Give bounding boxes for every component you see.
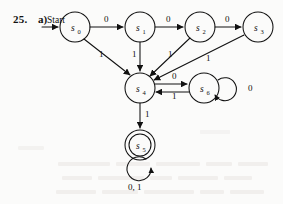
transition-label-s5-self: 0, 1 <box>128 182 142 192</box>
state-s5-inner-circle <box>129 134 151 156</box>
state-s0-circle <box>60 12 90 42</box>
transition-label-s2-s4: 1 <box>168 49 173 59</box>
state-s1-label: s <box>136 23 140 33</box>
state-s2-label: s <box>196 23 200 33</box>
transition-label-s6-self: 0 <box>248 83 253 93</box>
state-s4-subscript: 4 <box>143 89 147 96</box>
state-s4-circle <box>125 73 155 103</box>
state-s3-subscript: 3 <box>261 28 264 35</box>
transition-label-s1-s4: 1 <box>132 49 137 59</box>
state-s0-label: s <box>71 23 75 33</box>
state-s4-label: s <box>136 84 140 94</box>
state-s2-circle <box>185 12 215 42</box>
figure-page: 25. a) Start <box>0 0 283 204</box>
state-s6-label: s <box>200 84 204 94</box>
state-s3-label: s <box>254 23 258 33</box>
state-s5-subscript: 5 <box>143 146 146 153</box>
state-s2-subscript: 2 <box>203 28 206 35</box>
state-s6-circle <box>189 73 219 103</box>
state-s0-subscript: 0 <box>78 28 81 35</box>
transition-label-s1-s2: 0 <box>166 14 171 24</box>
transition-label-s3-s4: 1 <box>206 53 211 63</box>
state-s5-label: s <box>136 141 140 151</box>
transition-label-s0-s1: 0 <box>104 14 109 24</box>
transition-label-s0-s4: 1 <box>99 49 104 59</box>
edge-s0-s4 <box>84 39 130 75</box>
transition-label-s4-s5: 1 <box>145 109 150 119</box>
state-s3-circle <box>243 12 273 42</box>
state-s6-subscript: 6 <box>207 89 211 96</box>
state-machine-diagram: s 0 s 1 s 2 s 3 s 4 s 6 s 5 0 0 0 1 1 1 … <box>0 0 283 204</box>
transition-label-s2-s3: 0 <box>225 14 230 24</box>
edge-s6-self <box>215 78 236 101</box>
state-s1-circle <box>125 12 155 42</box>
transition-label-s4-s6: 0 <box>172 71 177 81</box>
state-s1-subscript: 1 <box>143 28 146 35</box>
transition-label-s6-s4: 1 <box>172 91 177 101</box>
